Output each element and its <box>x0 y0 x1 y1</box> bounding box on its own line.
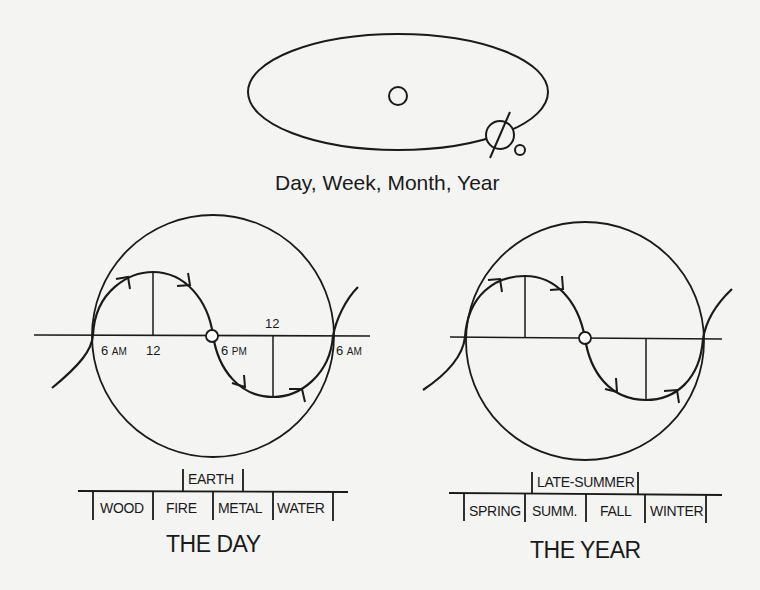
day-center-phase: EARTH <box>188 471 234 487</box>
day-axis-line <box>34 335 370 336</box>
tick-suffix: PM <box>232 346 247 357</box>
tick-number: 6 <box>221 343 228 358</box>
year-center-node <box>579 332 591 344</box>
year-title: THE YEAR <box>530 537 641 564</box>
year-phase-spring: SPRING <box>469 503 521 519</box>
day-phase-wood: WOOD <box>100 500 144 516</box>
year-phase-summer: SUMM. <box>532 503 577 519</box>
tick-number: 6 <box>101 343 108 358</box>
year-diagram <box>423 222 732 460</box>
tick-6pm: 6 PM <box>221 343 247 358</box>
day-diagram <box>34 215 370 457</box>
tick-suffix: AM <box>112 346 127 357</box>
tick-6am-end: 6 AM <box>336 343 362 358</box>
day-title: THE DAY <box>166 531 260 558</box>
orbit-caption: Day, Week, Month, Year <box>275 171 500 195</box>
moon-icon <box>515 145 525 155</box>
day-center-node <box>206 330 218 342</box>
day-phase-fire: FIRE <box>166 500 197 516</box>
tick-12-midnight: 12 <box>265 316 279 331</box>
tick-number: 6 <box>336 343 343 358</box>
tick-6am-start: 6 AM <box>101 343 127 358</box>
year-center-phase: LATE-SUMMER <box>537 474 635 490</box>
day-phase-metal: METAL <box>218 500 262 516</box>
tick-12-noon: 12 <box>146 343 160 358</box>
year-phase-winter: WINTER <box>650 503 703 519</box>
tick-suffix: AM <box>347 346 362 357</box>
year-phase-fall: FALL <box>600 503 632 519</box>
day-phase-water: WATER <box>277 500 325 516</box>
sun-icon <box>389 87 407 105</box>
